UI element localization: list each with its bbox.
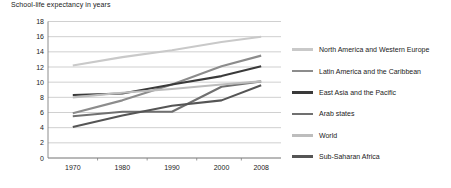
legend-color-swatch [292, 91, 313, 94]
svg-text:1980: 1980 [115, 164, 131, 171]
legend-item-label: Sub-Saharan Africa [319, 153, 380, 160]
legend-item-label: World [319, 132, 337, 139]
legend-item-label: Latin America and the Caribbean [319, 68, 421, 75]
legend-color-swatch [292, 113, 313, 116]
data-series-lines [73, 37, 261, 127]
svg-text:4: 4 [40, 124, 44, 131]
svg-text:2008: 2008 [253, 164, 269, 171]
svg-text:18: 18 [36, 18, 44, 25]
legend-item[interactable]: Arab states [292, 103, 450, 124]
svg-text:6: 6 [40, 109, 44, 116]
legend-color-swatch [292, 155, 313, 158]
y-tick-labels: 024681012141618 [36, 18, 44, 162]
chart-legend: North America and Western EuropeLatin Am… [292, 39, 450, 167]
legend-item-label: Arab states [319, 110, 354, 117]
svg-text:12: 12 [36, 64, 44, 71]
svg-text:2000: 2000 [214, 164, 230, 171]
svg-text:10: 10 [36, 79, 44, 86]
legend-color-swatch [292, 70, 313, 73]
svg-text:2: 2 [40, 139, 44, 146]
svg-text:1970: 1970 [65, 164, 81, 171]
legend-item-label: North America and Western Europe [319, 46, 429, 53]
chart-container: School-life expectancy in years 02468101… [0, 0, 451, 188]
svg-text:0: 0 [40, 155, 44, 162]
legend-color-swatch [292, 48, 313, 51]
legend-color-swatch [292, 134, 313, 137]
legend-item[interactable]: World [292, 125, 450, 146]
legend-item-label: East Asia and the Pacific [319, 89, 396, 96]
legend-item[interactable]: Sub-Saharan Africa [292, 146, 450, 167]
svg-text:14: 14 [36, 48, 44, 55]
legend-item[interactable]: North America and Western Europe [292, 39, 450, 60]
svg-text:1990: 1990 [164, 164, 180, 171]
legend-item[interactable]: East Asia and the Pacific [292, 82, 450, 103]
x-tick-labels: 19701980199020002008 [65, 164, 269, 171]
legend-item[interactable]: Latin America and the Caribbean [292, 60, 450, 81]
svg-text:8: 8 [40, 94, 44, 101]
svg-text:16: 16 [36, 33, 44, 40]
